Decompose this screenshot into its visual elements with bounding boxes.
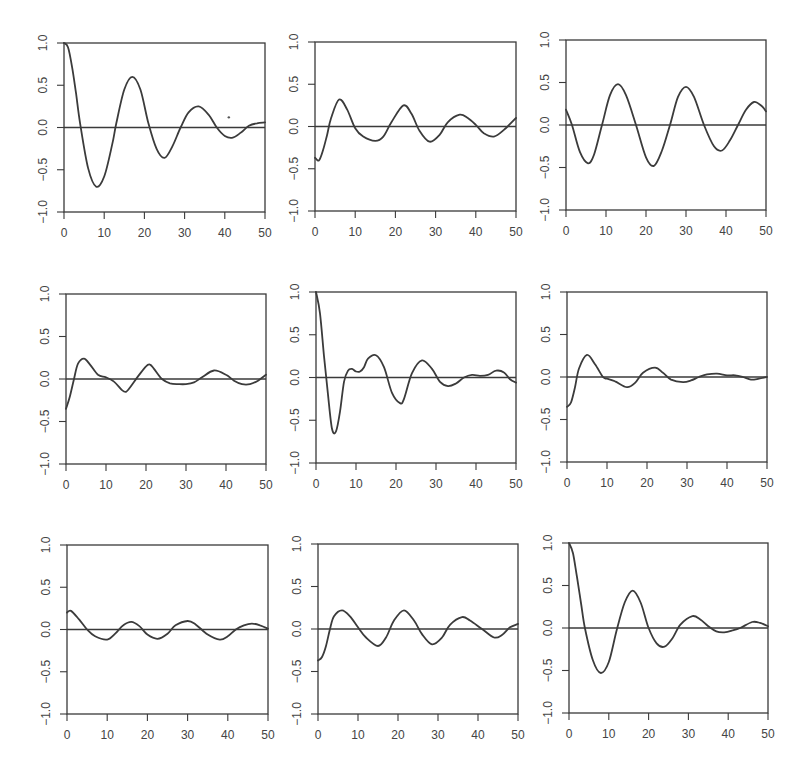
acf-curve xyxy=(66,359,266,409)
x-axis: 01020304050 xyxy=(563,210,773,238)
x-tick-label: 40 xyxy=(221,728,235,742)
x-tick-label: 0 xyxy=(566,727,573,741)
y-tick-label: −0.5 xyxy=(287,157,301,181)
panel-r2-c2: 01020304050−1.0−0.50.00.51.0 xyxy=(288,283,523,491)
x-tick-label: 0 xyxy=(564,476,571,490)
x-axis: 01020304050 xyxy=(64,714,275,742)
x-tick-label: 30 xyxy=(431,728,445,742)
y-tick-label: −0.5 xyxy=(538,155,552,179)
y-tick-label: 0.5 xyxy=(538,74,552,91)
y-axis: −1.0−0.50.00.51.0 xyxy=(38,285,66,476)
x-tick-label: 40 xyxy=(719,224,733,238)
y-tick-label: −0.5 xyxy=(539,407,553,431)
x-tick-label: 10 xyxy=(101,728,115,742)
x-tick-label: 20 xyxy=(138,226,152,240)
y-tick-label: 0.5 xyxy=(539,326,553,343)
x-tick-label: 0 xyxy=(312,225,319,239)
y-tick-label: 0.5 xyxy=(38,328,52,345)
x-tick-label: 30 xyxy=(429,225,443,239)
x-tick-label: 50 xyxy=(761,727,775,741)
y-tick-label: 0.0 xyxy=(288,369,302,386)
y-tick-label: −1.0 xyxy=(290,702,304,726)
panel-r2-c3: 01020304050−1.0−0.50.00.51.0 xyxy=(539,283,774,490)
x-axis: 01020304050 xyxy=(564,462,774,490)
x-tick-label: 10 xyxy=(99,478,113,492)
y-tick-label: 1.0 xyxy=(538,31,552,48)
x-tick-label: 0 xyxy=(64,728,71,742)
y-tick-label: 0.0 xyxy=(39,621,53,638)
x-tick-label: 10 xyxy=(349,225,363,239)
x-tick-label: 40 xyxy=(218,226,232,240)
y-tick-label: 0.5 xyxy=(39,579,53,596)
y-tick-label: 1.0 xyxy=(36,34,50,51)
panel-r1-c2: 01020304050−1.0−0.50.00.51.0 xyxy=(287,33,523,239)
y-tick-label: 0.0 xyxy=(38,370,52,387)
y-axis: −1.0−0.50.00.51.0 xyxy=(539,283,567,474)
x-tick-label: 50 xyxy=(509,225,523,239)
y-tick-label: 0.5 xyxy=(541,577,555,594)
y-axis: −1.0−0.50.00.51.0 xyxy=(287,33,315,223)
panel-r2-c1: 01020304050−1.0−0.50.00.51.0 xyxy=(38,285,273,492)
acf-panel-grid: 01020304050−1.0−0.50.00.51.001020304050−… xyxy=(0,0,807,783)
panel-r3-c2: 01020304050−1.0−0.50.00.51.0 xyxy=(290,535,525,742)
y-tick-label: −0.5 xyxy=(288,408,302,432)
x-tick-label: 30 xyxy=(680,476,694,490)
acf-curve xyxy=(569,543,768,673)
y-tick-label: −0.5 xyxy=(290,659,304,683)
x-tick-label: 20 xyxy=(389,225,403,239)
x-tick-label: 10 xyxy=(600,476,614,490)
x-tick-label: 20 xyxy=(640,476,654,490)
acf-curve xyxy=(316,292,516,433)
acf-curve xyxy=(567,355,767,407)
y-tick-label: 0.0 xyxy=(538,116,552,133)
x-tick-label: 50 xyxy=(258,226,272,240)
panel-r1-c1: 01020304050−1.0−0.50.00.51.0 xyxy=(36,34,272,240)
x-tick-label: 50 xyxy=(509,477,523,491)
y-tick-label: −1.0 xyxy=(38,452,52,476)
y-tick-label: 1.0 xyxy=(288,283,302,300)
x-axis: 01020304050 xyxy=(312,211,523,239)
y-tick-label: 0.5 xyxy=(36,77,50,94)
x-tick-label: 0 xyxy=(315,728,322,742)
y-axis: −1.0−0.50.00.51.0 xyxy=(39,536,67,726)
x-tick-label: 10 xyxy=(98,226,112,240)
x-tick-label: 30 xyxy=(181,728,195,742)
x-tick-label: 50 xyxy=(759,224,773,238)
x-tick-label: 40 xyxy=(469,225,483,239)
y-tick-label: 0.0 xyxy=(36,119,50,136)
x-tick-label: 0 xyxy=(313,477,320,491)
y-tick-label: 0.5 xyxy=(288,326,302,343)
y-tick-label: 0.0 xyxy=(541,619,555,636)
x-axis: 01020304050 xyxy=(61,212,272,240)
x-axis: 01020304050 xyxy=(313,463,523,491)
x-tick-label: 20 xyxy=(391,728,405,742)
y-tick-label: −1.0 xyxy=(287,199,301,223)
panel-r3-c3: 01020304050−1.0−0.50.00.51.0 xyxy=(541,534,775,741)
y-tick-label: −0.5 xyxy=(39,660,53,684)
y-tick-label: −0.5 xyxy=(36,158,50,182)
x-tick-label: 10 xyxy=(351,728,365,742)
acf-curve xyxy=(315,99,516,160)
y-tick-label: 0.5 xyxy=(287,76,301,93)
y-axis: −1.0−0.50.00.51.0 xyxy=(36,34,64,224)
x-tick-label: 30 xyxy=(179,478,193,492)
x-tick-label: 50 xyxy=(261,728,275,742)
x-tick-label: 20 xyxy=(389,477,403,491)
x-tick-label: 40 xyxy=(720,476,734,490)
x-tick-label: 50 xyxy=(760,476,774,490)
y-axis: −1.0−0.50.00.51.0 xyxy=(541,534,569,725)
y-tick-label: 0.0 xyxy=(539,368,553,385)
y-tick-label: −1.0 xyxy=(36,200,50,224)
y-axis: −1.0−0.50.00.51.0 xyxy=(288,283,316,475)
y-tick-label: 1.0 xyxy=(290,535,304,552)
x-tick-label: 40 xyxy=(469,477,483,491)
x-tick-label: 0 xyxy=(63,478,70,492)
y-tick-label: 1.0 xyxy=(541,534,555,551)
y-tick-label: 0.0 xyxy=(290,620,304,637)
x-tick-label: 40 xyxy=(471,728,485,742)
x-tick-label: 20 xyxy=(139,478,153,492)
panel-r1-c3: 01020304050−1.0−0.50.00.51.0 xyxy=(538,31,773,238)
x-tick-label: 30 xyxy=(679,224,693,238)
y-tick-label: −1.0 xyxy=(538,198,552,222)
x-tick-label: 30 xyxy=(178,226,192,240)
